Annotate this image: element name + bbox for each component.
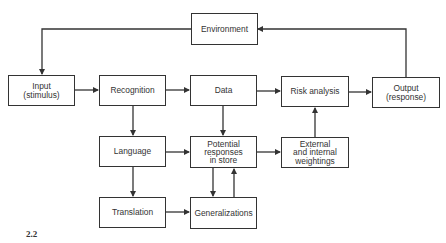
node-label: Recognition bbox=[110, 86, 154, 94]
node-label: Risk analysis bbox=[291, 87, 340, 95]
node-translation: Translation bbox=[99, 197, 166, 228]
node-label: Output (response) bbox=[386, 84, 426, 100]
node-generalizations: Generalizations bbox=[190, 197, 257, 229]
node-language: Language bbox=[99, 136, 166, 167]
node-label: Input (stimulus) bbox=[23, 82, 59, 98]
figure-label: 2.2 bbox=[26, 229, 37, 239]
node-potential-responses: Potential responses in store bbox=[190, 136, 257, 168]
node-label: Potential responses in store bbox=[204, 140, 243, 165]
node-output: Output (response) bbox=[372, 77, 440, 108]
node-label: Environment bbox=[201, 25, 248, 33]
node-label: Language bbox=[114, 147, 151, 155]
node-risk-analysis: Risk analysis bbox=[281, 76, 349, 107]
node-recognition: Recognition bbox=[99, 75, 166, 106]
node-label: External and internal weightings bbox=[293, 140, 337, 165]
node-environment: Environment bbox=[191, 13, 258, 45]
node-data: Data bbox=[190, 75, 257, 106]
node-input: Input (stimulus) bbox=[8, 75, 75, 106]
node-weightings: External and internal weightings bbox=[281, 137, 349, 168]
node-label: Data bbox=[215, 86, 233, 94]
node-label: Generalizations bbox=[194, 209, 252, 217]
node-label: Translation bbox=[112, 208, 153, 216]
